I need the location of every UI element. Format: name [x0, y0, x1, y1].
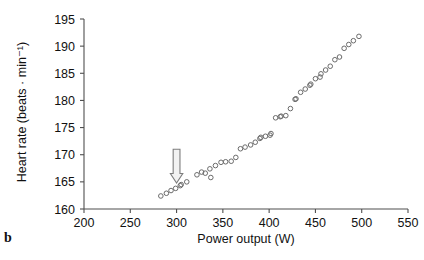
x-tick-label: 550 [398, 216, 419, 230]
y-tick-label: 165 [54, 175, 75, 189]
x-tick-label: 400 [259, 216, 280, 230]
data-point [328, 64, 333, 69]
x-tick-label: 450 [305, 216, 326, 230]
y-tick-label: 160 [54, 203, 75, 217]
data-point [219, 160, 224, 165]
data-point [288, 106, 293, 111]
data-point [284, 113, 289, 118]
y-axis-title: Heart rate (beats · min⁻¹) [15, 42, 29, 182]
data-point [303, 87, 308, 92]
panel-label: b [4, 231, 12, 245]
data-point-markers [159, 34, 362, 198]
x-tick-label: 350 [212, 216, 233, 230]
data-point [195, 173, 200, 178]
y-tick-label: 185 [54, 67, 75, 81]
x-tick-label: 250 [120, 216, 141, 230]
data-point [184, 180, 189, 185]
data-point [323, 68, 328, 73]
x-tick-label: 300 [166, 216, 187, 230]
y-tick-label: 190 [54, 40, 75, 54]
data-point [238, 146, 243, 151]
data-point [313, 76, 318, 81]
data-point [173, 186, 178, 191]
data-point [342, 46, 347, 51]
x-axis-title: Power output (W) [197, 232, 294, 246]
data-point [209, 175, 214, 180]
data-point [234, 155, 239, 160]
y-axis-tick-labels: 160165170175180185190195 [54, 13, 75, 217]
data-point [223, 159, 228, 164]
data-point [213, 163, 218, 168]
data-point [169, 188, 174, 193]
x-tick-label: 200 [74, 216, 95, 230]
data-point [159, 194, 164, 199]
data-point [337, 55, 342, 60]
y-tick-label: 170 [54, 148, 75, 162]
y-tick-label: 180 [54, 94, 75, 108]
data-point [248, 143, 253, 148]
down-arrow-icon [170, 149, 182, 183]
arrow-annotation [170, 149, 182, 183]
data-point [164, 191, 169, 196]
data-point [351, 38, 356, 43]
data-point [357, 34, 362, 39]
data-point [346, 42, 351, 47]
y-tick-label: 195 [54, 13, 75, 27]
y-tick-label: 175 [54, 121, 75, 135]
data-point [298, 90, 303, 95]
x-axis-tick-labels: 200250300350400450500550 [74, 216, 419, 230]
axes-lines [80, 19, 408, 213]
figure-panel-b: 160165170175180185190195 200250300350400… [0, 0, 424, 260]
data-point [263, 134, 268, 139]
heart-rate-power-scatter-chart: 160165170175180185190195 200250300350400… [0, 0, 424, 260]
data-point [243, 145, 248, 150]
x-tick-label: 500 [351, 216, 372, 230]
data-point [229, 159, 234, 164]
data-point [208, 167, 213, 172]
data-point [253, 140, 258, 145]
data-point [333, 57, 338, 62]
data-point [273, 116, 278, 121]
